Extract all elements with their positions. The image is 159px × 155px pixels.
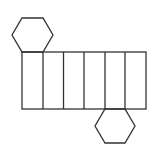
hexagonal-prism-net xyxy=(0,0,159,155)
top-hexagon-face xyxy=(12,18,53,52)
face-dividers xyxy=(43,52,125,109)
bottom-hexagon-face xyxy=(95,109,135,143)
